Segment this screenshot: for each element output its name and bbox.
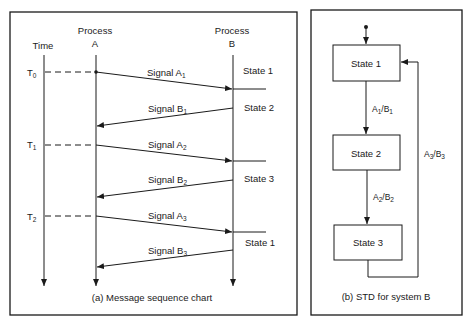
svg-text:A1/B1: A1/B1 — [372, 104, 393, 115]
state-label: State 2 — [244, 102, 274, 113]
transition-a1-b1: A1/B1 — [366, 81, 393, 134]
svg-text:T2: T2 — [27, 211, 37, 223]
panel-a-caption: (a) Message sequence chart — [92, 292, 213, 303]
panel-b-caption: (b) STD for system B — [342, 291, 431, 302]
panel-message-sequence-chart: Time Process A Process B T0 T1 T2 Signal… — [10, 12, 297, 315]
signal-a2: Signal A2 — [96, 139, 232, 161]
state-box-1-label: State 1 — [351, 58, 381, 69]
svg-text:A3/B3: A3/B3 — [424, 149, 445, 160]
svg-text:Signal A2: Signal A2 — [148, 139, 187, 151]
diagram-canvas: Time Process A Process B T0 T1 T2 Signal… — [0, 0, 470, 329]
process-a-label-line1: Process — [78, 25, 113, 36]
process-b-label-line2: B — [229, 38, 235, 49]
svg-text:T0: T0 — [27, 67, 37, 79]
svg-text:Signal B2: Signal B2 — [148, 174, 187, 186]
panel-state-transition-diagram: State 1 State 2 State 3 A1/B1 A2/B2 A3/B… — [311, 10, 462, 315]
process-a-label-line2: A — [92, 38, 99, 49]
signal-a1: Signal A1 — [96, 67, 232, 89]
svg-text:Signal B3: Signal B3 — [148, 245, 187, 257]
svg-text:Signal A1: Signal A1 — [147, 67, 186, 79]
signal-b2: Signal B2 — [97, 174, 233, 197]
time-mark-t2: T2 — [27, 211, 95, 223]
time-axis-label: Time — [33, 40, 54, 51]
svg-text:Signal B1: Signal B1 — [148, 103, 187, 115]
state-box-2-label: State 2 — [351, 148, 381, 159]
process-b-label-line1: Process — [215, 25, 250, 36]
transition-a2-b2: A2/B2 — [367, 170, 394, 224]
signal-b3: Signal B3 — [97, 245, 233, 267]
time-mark-t1: T1 — [27, 139, 95, 151]
signal-a3: Signal A3 — [96, 210, 232, 232]
svg-text:Signal A3: Signal A3 — [148, 210, 187, 222]
state-label: State 1 — [245, 237, 275, 248]
panel-a-frame — [10, 12, 297, 315]
state-label: State 1 — [243, 65, 273, 76]
signal-b1: Signal B1 — [97, 103, 233, 126]
svg-text:T1: T1 — [27, 139, 37, 151]
time-mark-t0: T0 — [27, 67, 98, 79]
svg-text:A2/B2: A2/B2 — [373, 192, 394, 203]
state-box-3-label: State 3 — [353, 237, 383, 248]
state-label: State 3 — [244, 173, 274, 184]
